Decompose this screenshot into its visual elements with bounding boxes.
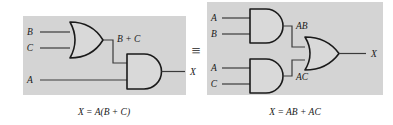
right-input-label-b-top: B <box>211 29 217 39</box>
left-input-label-b: B <box>27 27 33 37</box>
left-output-label-x: X <box>189 67 197 77</box>
left-input-label-a: A <box>26 75 33 85</box>
right-caption: X = AB + AC <box>268 107 321 117</box>
right-intermediate-label-ab: AB <box>295 21 308 31</box>
right-and-gate-top <box>250 9 283 43</box>
left-caption: X = A(B + C) <box>77 107 130 118</box>
right-input-label-a-top: A <box>210 13 217 23</box>
equivalence-symbol: ≡ <box>191 42 200 59</box>
right-intermediate-label-ac: AC <box>295 72 309 82</box>
left-input-label-c: C <box>27 43 34 53</box>
left-panel-background <box>23 16 186 95</box>
logic-equivalence-figure: B C A B + C X ≡ A B A C AB AC X <box>0 0 393 125</box>
left-and-gate <box>127 54 162 89</box>
right-output-label-x: X <box>370 49 378 59</box>
left-intermediate-label-b-plus-c: B + C <box>117 34 141 44</box>
right-panel-background <box>207 2 383 95</box>
right-input-label-c-bottom: C <box>211 79 218 89</box>
right-and-gate-bottom <box>250 59 283 93</box>
right-input-label-a-bottom: A <box>210 63 217 73</box>
circuit-diagram-svg: B C A B + C X ≡ A B A C AB AC X <box>0 0 393 125</box>
